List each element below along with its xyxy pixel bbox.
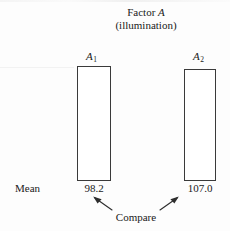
mean-value-a1: 98.2 (77, 182, 111, 194)
level-label-a2-subscript: 2 (200, 55, 204, 64)
figure-title-line-2: (illumination) (98, 19, 194, 32)
compare-arrow-left-shaft (95, 198, 112, 210)
bar-a1 (77, 66, 111, 181)
level-label-a1-subscript: 1 (93, 55, 97, 64)
scan-artifact-rule (0, 67, 74, 68)
figure-title-line-1: Factor A (98, 6, 194, 19)
level-label-a2: A2 (193, 50, 203, 62)
compare-arrowhead-right (170, 197, 178, 204)
scan-artifact-top (0, 0, 230, 2)
figure-title-factor-letter: A (158, 6, 165, 18)
bar-a2 (184, 69, 216, 181)
level-label-a1-letter: A (86, 50, 93, 62)
compare-arrow-right-shaft (160, 198, 177, 210)
figure-title-prefix: Factor (127, 6, 158, 18)
mean-value-a2: 107.0 (181, 182, 219, 194)
level-label-a1: A1 (86, 50, 96, 62)
figure-title: Factor A (illumination) (98, 6, 194, 32)
mean-row-label: Mean (15, 182, 40, 194)
factor-a-diagram: Factor A (illumination) A1 A2 Mean 98.2 … (0, 0, 230, 231)
level-label-a2-letter: A (193, 50, 200, 62)
compare-arrowhead-left (93, 197, 101, 204)
compare-annotation-label: Compare (103, 211, 169, 223)
